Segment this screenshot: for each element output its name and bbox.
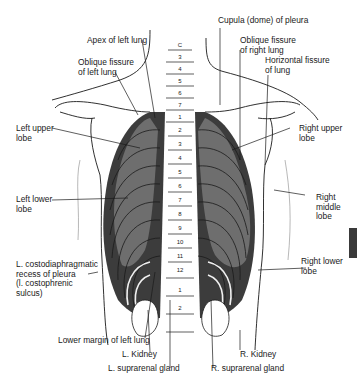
label-r-suprarenal-gland: R. suprarenal gland: [211, 364, 284, 374]
label-right-lower-lobe: Right lower lobe: [301, 257, 343, 276]
svg-text:11: 11: [177, 253, 184, 259]
right-kidney: [202, 300, 229, 336]
svg-text:10: 10: [177, 239, 184, 245]
label-oblique-fissure-left: Oblique fissure of left lung: [78, 58, 134, 77]
label-right-upper-lobe: Right upper lobe: [299, 124, 342, 143]
vertebral-column: C34 567 123 456 789 101112 12: [166, 40, 194, 340]
label-oblique-fissure-right: Oblique fissure of right lung: [240, 36, 296, 55]
label-lower-margin-left-lung: Lower margin of left lung: [58, 336, 150, 346]
label-costodiaphragmatic-recess: L. costodiaphragmatic recess of pleura (…: [16, 260, 98, 298]
label-l-kidney: L. Kidney: [122, 350, 157, 360]
label-apex-left-lung: Apex of left lung: [87, 36, 147, 46]
svg-text:12: 12: [177, 267, 184, 273]
label-horizontal-fissure: Horizontal fissure of lung: [265, 56, 330, 75]
left-kidney: [132, 300, 158, 336]
label-cupula-pleura: Cupula (dome) of pleura: [218, 16, 308, 26]
side-tab: [349, 228, 357, 258]
label-left-lower-lobe: Left lower lobe: [16, 195, 52, 214]
label-left-upper-lobe: Left upper lobe: [16, 124, 54, 143]
label-l-suprarenal-gland: L. suprarenal gland: [108, 364, 180, 374]
label-r-kidney: R. Kidney: [240, 350, 276, 360]
svg-text:C: C: [178, 42, 183, 48]
label-right-middle-lobe: Right middle lobe: [316, 193, 341, 222]
